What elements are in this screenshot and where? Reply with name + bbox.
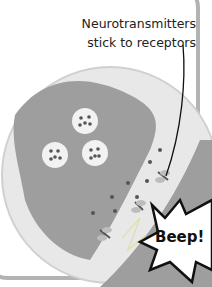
synapse-diagram: Neurotransmitters stick to receptors bbox=[0, 0, 212, 287]
beep-text: Beep! bbox=[155, 228, 204, 246]
